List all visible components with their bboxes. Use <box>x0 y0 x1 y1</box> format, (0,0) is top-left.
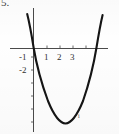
y-axis-ticks <box>31 57 33 122</box>
y-tick-label-neg2: -2 <box>19 66 27 75</box>
x-tick-label-2: 2 <box>57 53 62 62</box>
y-tick-label-neg1: -1 <box>19 53 27 62</box>
x-axis-ticks <box>47 46 86 49</box>
x-tick-label-3: 3 <box>70 53 75 62</box>
figure-panel: 5. 1 2 3 -1 -2 i <box>0 0 119 134</box>
parabola-curve <box>27 14 102 124</box>
x-tick-label-1: 1 <box>44 53 49 62</box>
scan-artifact-mark: i <box>78 113 80 119</box>
parabola-graph <box>0 0 119 134</box>
